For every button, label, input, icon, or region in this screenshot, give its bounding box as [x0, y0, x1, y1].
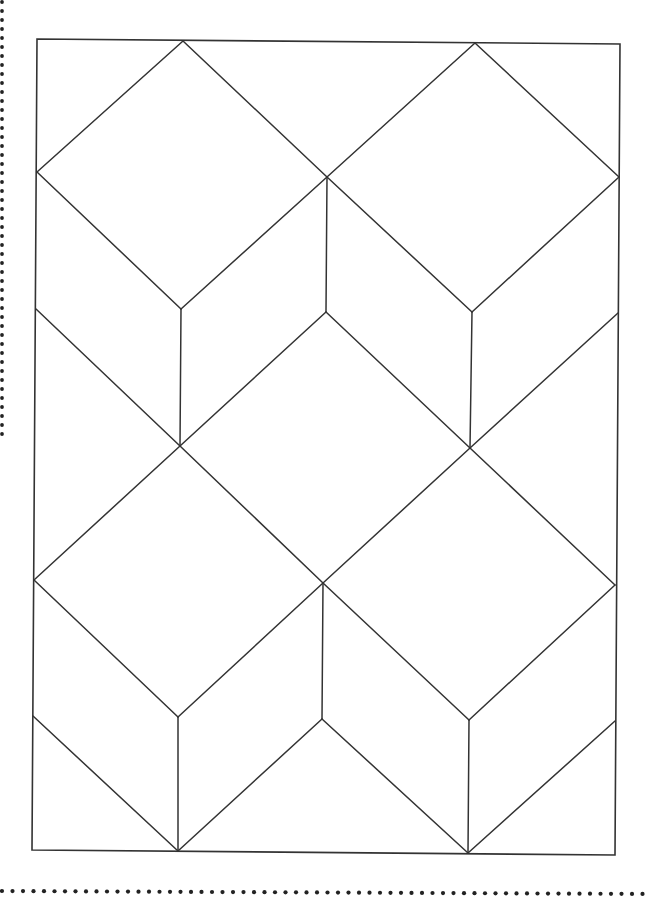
dot	[0, 99, 4, 103]
pattern-line	[33, 716, 178, 851]
dot	[546, 891, 550, 895]
dot	[0, 144, 4, 148]
dot	[0, 252, 4, 256]
dot	[0, 387, 4, 391]
dot	[0, 288, 4, 292]
pattern-line	[326, 312, 470, 448]
dot	[304, 890, 308, 894]
pattern-line	[34, 580, 178, 717]
dot	[640, 892, 644, 896]
dot	[73, 889, 77, 893]
dot	[346, 891, 350, 895]
dot	[399, 891, 403, 895]
dot	[199, 890, 203, 894]
pattern-line	[180, 446, 323, 583]
dot	[168, 890, 172, 894]
dot	[105, 889, 109, 893]
dot	[0, 207, 4, 211]
dot	[0, 27, 4, 31]
dot	[0, 198, 4, 202]
dot	[0, 225, 4, 229]
cube-lines	[33, 41, 619, 853]
dot	[504, 891, 508, 895]
dot	[567, 892, 571, 896]
dot	[262, 890, 266, 894]
pattern-line	[180, 309, 181, 446]
dot	[325, 890, 329, 894]
dot	[0, 378, 4, 382]
dot	[0, 45, 4, 49]
left-dotted-cut-line	[0, 0, 4, 436]
dot	[0, 396, 4, 400]
pattern-line	[34, 446, 180, 580]
pattern-line	[475, 43, 619, 177]
dot	[0, 135, 4, 139]
dot	[273, 890, 277, 894]
dot	[0, 351, 4, 355]
dot	[0, 234, 4, 238]
pattern-line	[326, 177, 327, 312]
pattern-line	[37, 41, 183, 172]
dot	[0, 180, 4, 184]
dot	[378, 891, 382, 895]
dot	[0, 324, 4, 328]
dot	[0, 342, 4, 346]
dot	[178, 890, 182, 894]
dot	[294, 890, 298, 894]
dot	[126, 889, 130, 893]
bottom-dotted-cut-line	[0, 889, 645, 896]
pattern-line	[470, 448, 615, 585]
dot	[451, 891, 455, 895]
dot	[483, 891, 487, 895]
dot	[136, 890, 140, 894]
dot	[220, 890, 224, 894]
dot	[31, 889, 35, 893]
dot	[315, 890, 319, 894]
dot	[210, 890, 214, 894]
dot	[388, 891, 392, 895]
pattern-line	[322, 583, 323, 719]
dot	[441, 891, 445, 895]
dot	[0, 153, 4, 157]
pattern-line	[470, 313, 618, 448]
dot	[0, 54, 4, 58]
dot	[367, 891, 371, 895]
dot	[94, 889, 98, 893]
dot	[0, 279, 4, 283]
diagram-canvas: Tumbling blocks quilt pattern	[0, 0, 650, 905]
dot	[619, 892, 623, 896]
dot	[0, 360, 4, 364]
dot	[0, 432, 4, 436]
dot	[0, 108, 4, 112]
dot	[0, 315, 4, 319]
dot	[241, 890, 245, 894]
pattern-line	[468, 720, 469, 853]
dot	[0, 333, 4, 337]
pattern-line	[469, 585, 615, 720]
dot	[409, 891, 413, 895]
dot	[231, 890, 235, 894]
dot	[115, 889, 119, 893]
quilt-pattern-svg	[0, 0, 650, 905]
dot	[357, 891, 361, 895]
pattern-line	[183, 41, 327, 177]
pattern-line	[178, 719, 322, 851]
dot	[0, 423, 4, 427]
dot	[493, 891, 497, 895]
dot	[63, 889, 67, 893]
dot	[0, 72, 4, 76]
dot	[147, 890, 151, 894]
pattern-line	[470, 312, 472, 448]
dot	[462, 891, 466, 895]
dot	[0, 369, 4, 373]
dot	[0, 18, 4, 22]
dot	[472, 891, 476, 895]
dot	[0, 216, 4, 220]
dot	[189, 890, 193, 894]
dot	[0, 126, 4, 130]
dot	[84, 889, 88, 893]
pattern-line	[322, 719, 468, 853]
pattern-line	[472, 177, 619, 312]
dot	[0, 63, 4, 67]
dot	[630, 892, 634, 896]
